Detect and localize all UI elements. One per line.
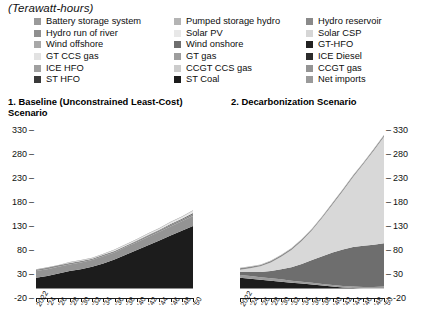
x-axis-tick-label: '38 bbox=[125, 296, 136, 308]
legend-item-label: Wind onshore bbox=[186, 40, 243, 49]
legend-swatch-icon bbox=[174, 65, 181, 72]
legend-swatch-icon bbox=[174, 18, 181, 25]
legend-item: GT-HFO bbox=[306, 39, 418, 51]
x-axis-tick-label: '50 bbox=[383, 296, 394, 308]
legend-item-label: GT CCS gas bbox=[46, 52, 99, 61]
chart-2-plot bbox=[240, 130, 384, 298]
legend-item-label: Solar PV bbox=[186, 29, 223, 38]
x-axis-tick-label: '30 bbox=[80, 296, 91, 308]
legend-swatch-icon bbox=[306, 30, 313, 37]
legend-item: CCGT CCS gas bbox=[174, 62, 306, 74]
legend-item-label: ICE HFO bbox=[46, 64, 84, 73]
legend-swatch-icon bbox=[174, 53, 181, 60]
legend-swatch-icon bbox=[174, 41, 181, 48]
x-axis-tick-label: '28 bbox=[69, 296, 80, 308]
legend-item: ICE Diesel bbox=[306, 51, 418, 63]
legend-item-label: Hydro reservoir bbox=[318, 17, 382, 26]
legend-item-label: CCGT gas bbox=[318, 64, 362, 73]
legend-swatch-icon bbox=[306, 41, 313, 48]
legend-item: GT CCS gas bbox=[34, 51, 174, 63]
y-axis-tick-label: –330 bbox=[386, 126, 408, 135]
legend-item: Wind offshore bbox=[34, 39, 174, 51]
legend-swatch-icon bbox=[34, 76, 41, 83]
y-axis-tick-label: –180 bbox=[386, 198, 408, 207]
legend-item: Solar CSP bbox=[306, 28, 418, 40]
stacked-area-svg bbox=[36, 130, 193, 298]
chart-1-x-labels: 2022'24'26'28'30'32'34'36'38'40'42'44'46… bbox=[36, 302, 194, 326]
x-axis-tick-label: '48 bbox=[181, 296, 192, 308]
chart-2-x-labels: 2022'24'26'28'30'32'34'36'38'40'42'44'46… bbox=[240, 302, 385, 326]
legend-item-label: ST Coal bbox=[186, 75, 219, 84]
panel-1-title: 1. Baseline (Unconstrained Least-Cost) S… bbox=[8, 96, 198, 118]
legend-item-label: GT gas bbox=[186, 52, 216, 61]
chart-figure: (Terawatt-hours) Battery storage systemH… bbox=[0, 0, 421, 326]
legend-item-label: Pumped storage hydro bbox=[186, 17, 280, 26]
legend-item: GT gas bbox=[174, 51, 306, 63]
x-axis-tick-label: '32 bbox=[91, 296, 102, 308]
y-axis-tick-label: -20– bbox=[14, 294, 34, 303]
legend-item: ICE HFO bbox=[34, 62, 174, 74]
stacked-area-svg bbox=[240, 130, 384, 298]
legend-item: Hydro run of river bbox=[34, 28, 174, 40]
chart-2-areas bbox=[240, 130, 384, 298]
legend-item: Pumped storage hydro bbox=[174, 16, 306, 28]
legend-swatch-icon bbox=[174, 76, 181, 83]
legend-swatch-icon bbox=[306, 65, 313, 72]
y-axis-tick-label: –230 bbox=[386, 174, 408, 183]
legend-item-label: Net imports bbox=[318, 75, 366, 84]
legend-swatch-icon bbox=[306, 76, 313, 83]
legend-item: Battery storage system bbox=[34, 16, 174, 28]
y-axis-tick-label: –130 bbox=[386, 222, 408, 231]
legend-item-label: GT-HFO bbox=[318, 40, 353, 49]
x-axis-tick-label: '46 bbox=[170, 296, 181, 308]
legend-item-label: ICE Diesel bbox=[318, 52, 362, 61]
legend-swatch-icon bbox=[34, 65, 41, 72]
legend-swatch-icon bbox=[34, 18, 41, 25]
legend-swatch-icon bbox=[306, 53, 313, 60]
x-axis-tick-label: '40 bbox=[136, 296, 147, 308]
legend-item: ST Coal bbox=[174, 74, 306, 86]
legend-item: CCGT gas bbox=[306, 62, 418, 74]
legend-item: Wind onshore bbox=[174, 39, 306, 51]
legend-item-label: Solar CSP bbox=[318, 29, 361, 38]
legend-item: ST HFO bbox=[34, 74, 174, 86]
legend-swatch-icon bbox=[34, 30, 41, 37]
legend-item-label: ST HFO bbox=[46, 75, 80, 84]
legend-item-label: CCGT CCS gas bbox=[186, 64, 252, 73]
legend-swatch-icon bbox=[34, 53, 41, 60]
legend-item-label: Wind offshore bbox=[46, 40, 103, 49]
y-axis-tick-label: 180– bbox=[12, 198, 34, 207]
y-axis-tick-label: 330– bbox=[12, 126, 34, 135]
legend-item-label: Hydro run of river bbox=[46, 29, 118, 38]
legend-item-label: Battery storage system bbox=[46, 17, 141, 26]
units-caption: (Terawatt-hours) bbox=[8, 2, 94, 14]
y-axis-tick-label: –80 bbox=[386, 246, 403, 255]
chart-legend: Battery storage systemHydro run of river… bbox=[34, 16, 419, 86]
y-axis-tick-label: –30 bbox=[386, 270, 403, 279]
chart-1-plot bbox=[36, 130, 193, 298]
x-axis-tick-label: '50 bbox=[192, 296, 203, 308]
legend-item: Hydro reservoir bbox=[306, 16, 418, 28]
legend-item: Solar PV bbox=[174, 28, 306, 40]
legend-swatch-icon bbox=[306, 18, 313, 25]
y-axis-tick-label: 230– bbox=[12, 174, 34, 183]
y-axis-tick-label: 280– bbox=[12, 150, 34, 159]
legend-item: Net imports bbox=[306, 74, 418, 86]
x-axis-tick-label: '36 bbox=[114, 296, 125, 308]
y-axis-tick-label: 30– bbox=[17, 270, 34, 279]
y-axis-tick-label: 130– bbox=[12, 222, 34, 231]
panel-2-title: 2. Decarbonization Scenario bbox=[231, 96, 411, 107]
y-axis-tick-label: 80– bbox=[17, 246, 34, 255]
legend-swatch-icon bbox=[174, 30, 181, 37]
legend-swatch-icon bbox=[34, 41, 41, 48]
chart-1-areas bbox=[36, 130, 193, 298]
y-axis-tick-label: –280 bbox=[386, 150, 408, 159]
